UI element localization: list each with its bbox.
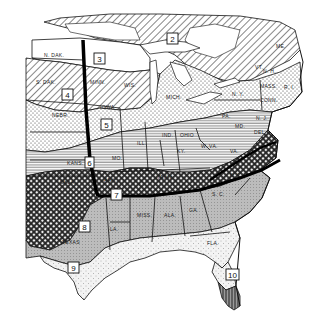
label-conn: CONN. [260, 97, 278, 103]
zone-label-4: 4 [62, 89, 73, 100]
zone-label-9: 9 [68, 262, 79, 273]
label-ill: ILL. [137, 140, 147, 146]
zone-label-6: 6 [85, 157, 94, 168]
label-me: ME. [276, 43, 286, 49]
label-mo: MO. [112, 155, 122, 161]
label-fla: FLA. [207, 240, 219, 246]
svg-text:2: 2 [170, 35, 175, 44]
label-kans: KANS. [67, 160, 84, 166]
svg-text:5: 5 [104, 121, 109, 130]
label-la: LA. [110, 226, 118, 232]
label-minn: MINN. [90, 79, 106, 85]
zone-label-10: 10 [226, 269, 239, 280]
label-nc: N. C. [230, 172, 243, 178]
svg-text:3: 3 [97, 55, 102, 64]
zone-map: 2 3 4 5 6 7 8 9 10 N. DAK. S. DAK. MINN.… [0, 0, 319, 313]
label-va: VA. [230, 148, 239, 154]
label-del: DEL. [254, 129, 266, 135]
label-miss: MISS. [137, 212, 152, 218]
label-ark: ARK. [104, 177, 117, 183]
label-ala: ALA. [164, 212, 176, 218]
svg-text:10: 10 [228, 271, 237, 280]
label-ndak: N. DAK. [44, 52, 64, 58]
label-ind: IND. [162, 132, 173, 138]
label-tenn: TENN. [157, 174, 174, 180]
label-mich: MICH. [166, 94, 182, 100]
zone-label-7: 7 [111, 189, 122, 200]
zone-label-3: 3 [94, 53, 105, 64]
svg-text:8: 8 [82, 223, 87, 232]
label-ohio: OHIO [180, 132, 194, 138]
svg-text:6: 6 [87, 159, 92, 168]
label-nj: N. J. [256, 115, 268, 121]
label-mass: MASS. [260, 83, 277, 89]
label-iowa: IOWA [100, 104, 115, 110]
zone-label-5: 5 [101, 119, 112, 130]
label-sc: S. C. [212, 191, 225, 197]
label-okla: OKLA. [60, 179, 76, 185]
svg-text:9: 9 [71, 264, 76, 273]
zone-label-8: 8 [79, 221, 90, 232]
label-vt: VT. [255, 64, 263, 70]
label-sdak: S. DAK. [36, 79, 56, 85]
label-pa: PA. [222, 113, 231, 119]
label-wis: WIS. [124, 82, 136, 88]
label-ga: GA. [189, 207, 199, 213]
label-ri: R. I. [284, 84, 295, 90]
label-wva: W. VA. [201, 143, 218, 149]
label-md: MD. [235, 123, 245, 129]
label-nebr: NEBR. [52, 112, 69, 118]
svg-text:7: 7 [114, 191, 119, 200]
label-ky: KY. [177, 148, 185, 154]
label-ny: N. Y. [232, 91, 244, 97]
svg-text:4: 4 [65, 91, 70, 100]
label-texas: TEXAS [62, 239, 80, 245]
zone-label-2: 2 [167, 33, 178, 44]
label-nh: N. H. [263, 68, 276, 74]
